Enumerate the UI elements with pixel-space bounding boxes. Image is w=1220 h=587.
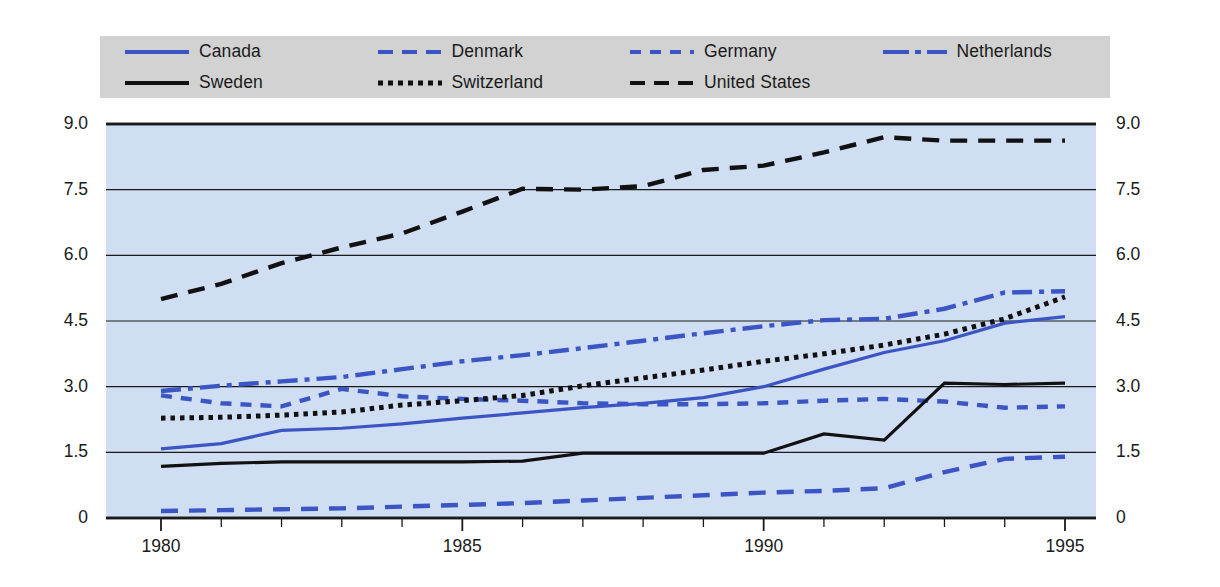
x-axis-tick-label: 1985 [422, 536, 502, 557]
x-axis-tick-label: 1990 [724, 536, 804, 557]
y-axis-tick-label-left: 7.5 [26, 179, 88, 200]
x-axis-tick-label: 1980 [121, 536, 201, 557]
x-axis-tick-label: 1995 [1025, 536, 1105, 557]
y-axis-tick-label-right: 1.5 [1116, 441, 1178, 462]
y-axis-tick-label-right: 9.0 [1116, 113, 1178, 134]
chart-root: CanadaDenmarkGermanyNetherlandsSwedenSwi… [0, 0, 1220, 587]
y-axis-tick-label-right: 4.5 [1116, 310, 1178, 331]
y-axis-tick-label-left: 9.0 [26, 113, 88, 134]
plot-area: 001.51.53.03.04.54.56.06.07.57.59.09.019… [0, 0, 1220, 587]
y-axis-tick-label-right: 0 [1116, 507, 1178, 528]
y-axis-tick-label-left: 4.5 [26, 310, 88, 331]
y-axis-tick-label-right: 7.5 [1116, 179, 1178, 200]
line-chart [0, 0, 1220, 587]
y-axis-tick-label-left: 0 [26, 507, 88, 528]
y-axis-tick-label-left: 3.0 [26, 376, 88, 397]
y-axis-tick-label-left: 6.0 [26, 244, 88, 265]
y-axis-tick-label-right: 3.0 [1116, 376, 1178, 397]
y-axis-tick-label-right: 6.0 [1116, 244, 1178, 265]
x-axis-ticks [161, 518, 1065, 531]
y-axis-tick-label-left: 1.5 [26, 441, 88, 462]
